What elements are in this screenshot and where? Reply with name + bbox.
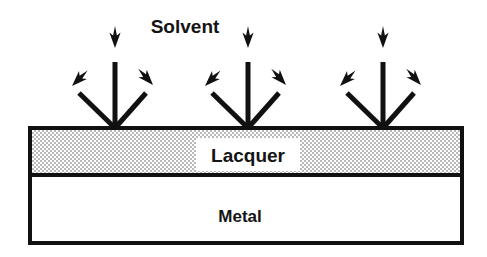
solvent-arrow-upright-left bbox=[115, 65, 157, 128]
arrow-group-left bbox=[68, 26, 157, 128]
solvent-arrow-up-right bbox=[377, 26, 388, 128]
arrow-group-right bbox=[336, 26, 425, 128]
solvent-arrow-upleft-right bbox=[336, 66, 383, 128]
metal-label: Metal bbox=[218, 207, 261, 226]
solvent-arrow-upleft-left bbox=[68, 66, 115, 128]
lacquer-label: Lacquer bbox=[211, 145, 286, 166]
solvent-evaporation-diagram: Solvent Lacquer Metal bbox=[0, 0, 487, 257]
solvent-arrow-upright-center bbox=[248, 65, 290, 128]
diagram-canvas: Solvent Lacquer Metal bbox=[0, 0, 487, 257]
solvent-arrow-upleft-center bbox=[201, 66, 248, 128]
solvent-arrow-up-center bbox=[242, 26, 253, 128]
arrow-group-center bbox=[201, 26, 290, 128]
solvent-arrow-upright-right bbox=[383, 65, 425, 128]
solvent-label: Solvent bbox=[151, 16, 220, 37]
solvent-arrow-up-left bbox=[109, 26, 120, 128]
